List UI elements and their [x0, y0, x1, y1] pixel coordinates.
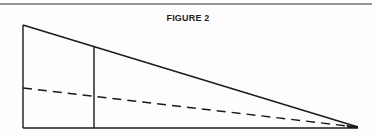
figure-canvas: FIGURE 2 [0, 0, 376, 138]
dashed-line [23, 88, 356, 127]
figure-title: FIGURE 2 [0, 13, 376, 23]
hypotenuse-line [23, 25, 358, 127]
